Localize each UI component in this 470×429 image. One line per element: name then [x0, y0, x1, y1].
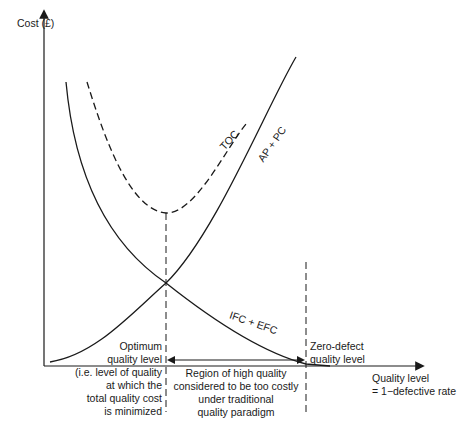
optimum-line-5: total quality cost [62, 392, 162, 405]
region-arrow-left-head [167, 356, 175, 364]
zero-defect-line-2: quality level [310, 353, 365, 366]
x-axis-label-line1: Quality level [372, 372, 429, 385]
region-line-2: considered to be too costly [170, 380, 302, 393]
optimum-line-4: at which the [62, 379, 162, 392]
optimum-line-6: is minimized [62, 405, 162, 418]
ifc-efc-curve [66, 82, 330, 366]
x-axis-label-line2: = 1−defective rate [372, 385, 456, 398]
region-line-1: Region of high quality [170, 367, 302, 380]
region-line-3: under traditional [170, 393, 302, 406]
zero-defect-label: Zero-defect quality level [310, 340, 365, 366]
optimum-label: Optimum quality level (i.e. level of qua… [62, 340, 162, 418]
optimum-line-3: (i.e. level of quality [62, 366, 162, 379]
region-label: Region of high quality considered to be … [170, 367, 302, 419]
zero-defect-line-1: Zero-defect [310, 340, 365, 353]
optimum-line-2: quality level [62, 353, 162, 366]
optimum-line-1: Optimum [62, 340, 162, 353]
region-line-4: quality paradigm [170, 406, 302, 419]
ap-pc-curve [50, 57, 296, 362]
y-axis-label: Cost (£) [17, 17, 54, 30]
